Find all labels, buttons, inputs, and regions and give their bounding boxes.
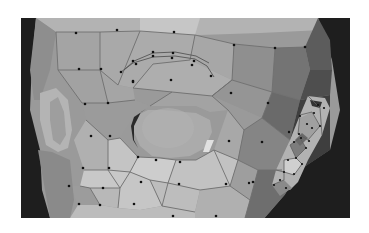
head-mesh (21, 18, 350, 218)
mesh-render-viewport (21, 18, 350, 218)
